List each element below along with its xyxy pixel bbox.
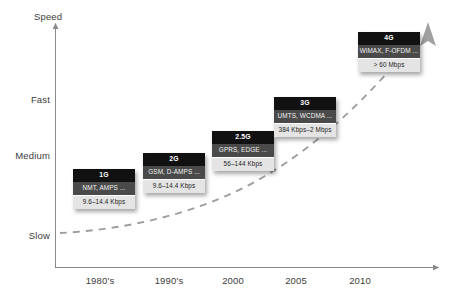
generation-speed: 56–144 Kbps — [212, 157, 274, 171]
y-tick-slow: Slow — [0, 230, 50, 241]
generation-technologies: NMT, AMPS ... — [73, 182, 135, 195]
y-axis-title: Speed — [34, 11, 62, 22]
generation-box-2-5g: 2.5G GPRS, EDGE ... 56–144 Kbps — [212, 131, 274, 171]
generation-name: 2.5G — [212, 131, 274, 144]
generation-speed: 9.6–14.4 Kbps — [73, 195, 135, 209]
generation-technologies: WiMAX, F-OFDM ... — [358, 45, 420, 58]
generation-technologies: GSM, D-AMPS ... — [143, 166, 205, 179]
generation-name: 4G — [358, 32, 420, 45]
x-tick-1990s: 1990's — [139, 275, 199, 286]
generation-name: 1G — [73, 169, 135, 182]
generation-box-4g: 4G WiMAX, F-OFDM ... > 60 Mbps — [358, 32, 420, 72]
trend-arrowhead-icon — [420, 22, 436, 46]
diagram-canvas: Speed Fast Medium Slow 1980's 1990's 200… — [0, 0, 461, 299]
generation-speed: 384 Kbps–2 Mbps — [274, 123, 336, 137]
generation-technologies: UMTS, WCDMA ... — [274, 110, 336, 123]
generation-box-2g: 2G GSM, D-AMPS ... 9.6–14.4 Kbps — [143, 153, 205, 193]
generation-speed: > 60 Mbps — [358, 58, 420, 72]
generation-name: 2G — [143, 153, 205, 166]
x-tick-2010: 2010 — [330, 275, 390, 286]
generation-speed: 9.6–14.4 Kbps — [143, 179, 205, 193]
generation-box-3g: 3G UMTS, WCDMA ... 384 Kbps–2 Mbps — [274, 97, 336, 137]
y-tick-medium: Medium — [0, 150, 50, 161]
generation-name: 3G — [274, 97, 336, 110]
y-tick-fast: Fast — [0, 94, 50, 105]
x-tick-1980s: 1980's — [70, 275, 130, 286]
x-tick-2005: 2005 — [266, 275, 326, 286]
x-tick-2000: 2000 — [203, 275, 263, 286]
generation-box-1g: 1G NMT, AMPS ... 9.6–14.4 Kbps — [73, 169, 135, 209]
generation-technologies: GPRS, EDGE ... — [212, 144, 274, 157]
